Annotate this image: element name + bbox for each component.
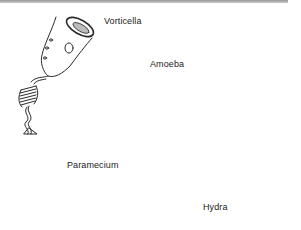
label-hydra: Hydra (203, 202, 228, 212)
label-paramecium: Paramecium (67, 160, 119, 170)
label-vorticella: Vorticella (104, 16, 142, 26)
label-amoeba: Amoeba (150, 59, 184, 69)
organisms-illustration (0, 0, 301, 230)
vorticella-drawing (19, 13, 97, 134)
